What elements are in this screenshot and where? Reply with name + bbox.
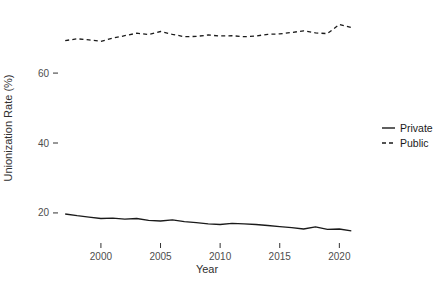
y-tick-label: 20 [38, 207, 50, 218]
chart-svg: Unionization Rate (%) Year 204060 200020… [0, 0, 445, 288]
plot-lines [65, 25, 351, 231]
x-tick-label: 2015 [269, 251, 292, 262]
y-axis-title: Unionization Rate (%) [2, 75, 14, 182]
unionization-rate-chart: Unionization Rate (%) Year 204060 200020… [0, 0, 445, 288]
y-tick-label: 60 [38, 68, 50, 79]
y-axis-ticks: 204060 [38, 68, 58, 219]
legend-label-private: Private [400, 122, 433, 134]
x-axis-title: Year [196, 263, 219, 275]
legend: Private Public [382, 122, 433, 149]
x-tick-label: 2005 [149, 251, 172, 262]
series-line-private [65, 214, 351, 231]
y-tick-label: 40 [38, 138, 50, 149]
x-tick-label: 2000 [90, 251, 113, 262]
x-axis-ticks: 20002005201020152020 [90, 243, 351, 262]
x-tick-label: 2020 [328, 251, 351, 262]
x-tick-label: 2010 [209, 251, 232, 262]
series-line-public [65, 25, 351, 42]
legend-label-public: Public [400, 137, 429, 149]
